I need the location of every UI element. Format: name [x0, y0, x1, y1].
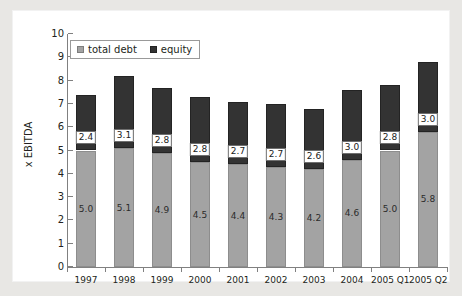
- bar-label-total-debt: 5.0: [79, 204, 93, 215]
- bar-label-total-debt: 4.9: [155, 205, 169, 216]
- bar-segment-total-debt[interactable]: 4.2: [304, 169, 324, 267]
- bar-label-total-debt: 4.6: [345, 208, 359, 219]
- x-axis-category-label: 2000: [181, 275, 219, 285]
- bar-segment-total-debt[interactable]: 5.1: [114, 148, 134, 267]
- bar-label-equity: 2.8: [380, 131, 400, 144]
- x-axis-category-label: 2004: [333, 275, 371, 285]
- x-axis-category-label: 1999: [143, 275, 181, 285]
- legend-swatch-icon: [77, 46, 84, 53]
- legend-item[interactable]: equity: [150, 44, 192, 55]
- x-axis-tick-mark: [219, 267, 220, 272]
- legend-swatch-icon: [150, 46, 157, 53]
- x-axis-tick-mark: [67, 267, 68, 272]
- x-axis-tick-mark: [295, 267, 296, 272]
- bar-group[interactable]: 4.22.6: [304, 11, 324, 267]
- bar-label-total-debt: 5.1: [117, 203, 131, 214]
- bar-segment-equity[interactable]: 2.4: [76, 95, 96, 151]
- bar-label-equity: 3.1: [114, 129, 134, 142]
- bar-segment-equity[interactable]: 2.8: [380, 85, 400, 150]
- figure-frame: x EBITDA 109876543210 5.02.45.13.14.92.8…: [0, 0, 462, 296]
- bar-segment-equity[interactable]: 3.1: [114, 76, 134, 148]
- x-axis-category-label: 2005 Q2: [409, 275, 447, 285]
- bar-label-equity: 3.0: [342, 141, 362, 154]
- bar-segment-total-debt[interactable]: 4.5: [190, 162, 210, 267]
- bar-label-equity: 2.7: [228, 145, 248, 158]
- bar-segment-equity[interactable]: 2.7: [228, 102, 248, 165]
- x-axis-category-label: 2005 Q1: [371, 275, 409, 285]
- bar-segment-total-debt[interactable]: 4.6: [342, 160, 362, 267]
- x-axis-category-label: 2001: [219, 275, 257, 285]
- bar-label-equity: 2.7: [266, 148, 286, 161]
- bar-segment-total-debt[interactable]: 4.3: [266, 167, 286, 267]
- bar-label-equity: 3.0: [418, 113, 438, 126]
- x-axis-tick-mark: [447, 267, 448, 272]
- bar-segment-total-debt[interactable]: 4.9: [152, 153, 172, 267]
- bar-segment-total-debt[interactable]: 5.0: [380, 151, 400, 268]
- bar-label-total-debt: 4.3: [269, 212, 283, 223]
- x-axis-category-label: 1997: [67, 275, 105, 285]
- bar-label-total-debt: 4.4: [231, 211, 245, 222]
- bar-segment-equity[interactable]: 2.7: [266, 104, 286, 167]
- bar-group[interactable]: 5.83.0: [418, 11, 438, 267]
- bar-label-equity: 2.8: [190, 143, 210, 156]
- bar-group[interactable]: 4.42.7: [228, 11, 248, 267]
- bar-segment-total-debt[interactable]: 5.8: [418, 132, 438, 267]
- bar-segment-equity[interactable]: 2.6: [304, 109, 324, 170]
- x-axis-category-label: 1998: [105, 275, 143, 285]
- x-axis-tick-mark: [371, 267, 372, 272]
- bar-segment-equity[interactable]: 2.8: [190, 97, 210, 162]
- bar-group[interactable]: 4.63.0: [342, 11, 362, 267]
- bar-segment-equity[interactable]: 2.8: [152, 88, 172, 153]
- bar-label-equity: 2.6: [304, 150, 324, 163]
- chart-legend: total debtequity: [70, 40, 200, 59]
- legend-item[interactable]: total debt: [77, 44, 137, 55]
- bar-segment-total-debt[interactable]: 5.0: [76, 151, 96, 268]
- x-axis-tick-mark: [333, 267, 334, 272]
- bar-group[interactable]: 5.02.8: [380, 11, 400, 267]
- x-axis-tick-mark: [181, 267, 182, 272]
- bar-segment-equity[interactable]: 3.0: [418, 62, 438, 132]
- x-axis-category-label: 2003: [295, 275, 333, 285]
- chart-plot-area: x EBITDA 109876543210 5.02.45.13.14.92.8…: [12, 10, 450, 282]
- bar-group[interactable]: 4.32.7: [266, 11, 286, 267]
- x-axis-tick-mark: [257, 267, 258, 272]
- bar-label-total-debt: 4.5: [193, 210, 207, 221]
- bar-label-equity: 2.8: [152, 134, 172, 147]
- bar-label-total-debt: 4.2: [307, 213, 321, 224]
- bar-segment-total-debt[interactable]: 4.4: [228, 164, 248, 267]
- legend-label: total debt: [88, 44, 137, 55]
- bar-label-total-debt: 5.0: [383, 204, 397, 215]
- bar-label-total-debt: 5.8: [421, 194, 435, 205]
- x-axis-tick-mark: [409, 267, 410, 272]
- x-axis-category-label: 2002: [257, 275, 295, 285]
- legend-label: equity: [161, 44, 192, 55]
- bar-segment-equity[interactable]: 3.0: [342, 90, 362, 160]
- x-axis-tick-mark: [143, 267, 144, 272]
- x-axis-tick-mark: [105, 267, 106, 272]
- bar-label-equity: 2.4: [76, 131, 96, 144]
